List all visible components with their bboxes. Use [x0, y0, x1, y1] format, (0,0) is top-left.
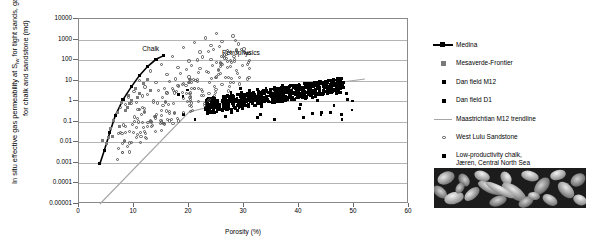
- legend-item-label: Dan field M12: [456, 77, 496, 86]
- data-point: [235, 69, 238, 72]
- data-point: [309, 85, 312, 88]
- y-axis-title-text: In situ effective gas permeability at Si…: [10, 0, 30, 184]
- data-point: [238, 82, 241, 85]
- data-point: [340, 113, 343, 116]
- data-point: [314, 94, 317, 97]
- data-point: [214, 76, 217, 79]
- legend-item[interactable]: West Lulu Sandstone: [432, 132, 590, 142]
- data-point: [247, 96, 250, 99]
- data-point: [114, 114, 117, 117]
- x-tick-label: 50: [341, 207, 365, 214]
- data-point: [289, 92, 292, 95]
- data-point: [207, 71, 210, 74]
- data-point: [135, 126, 138, 129]
- data-point: [177, 85, 180, 88]
- data-point: [159, 119, 162, 122]
- y-tick-label: 1: [26, 96, 72, 103]
- data-point: [256, 116, 259, 119]
- data-point: [250, 99, 253, 102]
- data-point: [176, 66, 179, 69]
- legend-item-label: Dan field D1: [456, 95, 492, 104]
- data-point: [214, 106, 217, 109]
- data-point: [299, 92, 302, 95]
- y-tick-label: 0.0001: [26, 178, 72, 185]
- y-tick-label: 10: [26, 76, 72, 83]
- legend-item[interactable]: Mesaverde-Frontier: [432, 58, 590, 68]
- y-tick-label: 0.001: [26, 158, 72, 165]
- data-point: [188, 96, 191, 99]
- x-tick-mark: [133, 203, 134, 207]
- data-point: [205, 108, 208, 111]
- black-square-icon: [432, 150, 456, 160]
- data-point: [267, 100, 270, 103]
- data-point: [271, 92, 274, 95]
- x-tick-label: 0: [66, 207, 90, 214]
- data-point: [149, 89, 152, 92]
- data-point: [211, 111, 214, 114]
- data-point: [139, 141, 142, 144]
- x-tick-label: 10: [121, 207, 145, 214]
- data-point: [174, 77, 177, 80]
- data-point: [296, 87, 299, 90]
- data-point: [137, 120, 140, 123]
- data-point: [204, 36, 207, 39]
- data-point: [345, 92, 348, 95]
- data-point: [255, 95, 258, 98]
- data-point: [229, 65, 232, 68]
- data-point: [277, 98, 280, 101]
- data-point: [333, 104, 336, 107]
- data-point: [298, 107, 301, 110]
- data-point: [124, 109, 127, 112]
- data-point: [120, 101, 123, 104]
- data-point: [320, 111, 323, 114]
- data-point: [198, 50, 201, 53]
- y-tick-label: 100: [26, 55, 72, 62]
- series-line: [100, 56, 163, 164]
- data-point: [165, 73, 168, 76]
- data-point: [331, 82, 334, 85]
- data-point: [259, 91, 262, 94]
- legend-item[interactable]: Medina: [432, 40, 590, 50]
- data-point: [212, 100, 215, 103]
- data-point: [160, 129, 163, 132]
- legend-item-label: Medina: [456, 40, 477, 49]
- y-tick-label: 0.00001: [26, 199, 72, 206]
- data-point: [153, 115, 156, 118]
- data-point: [130, 102, 133, 105]
- data-point: [211, 64, 214, 67]
- data-point: [168, 110, 171, 113]
- legend-item[interactable]: Dan field D1: [432, 95, 590, 105]
- data-point: [130, 85, 133, 88]
- chart-root: In situ effective gas permeability at Si…: [0, 0, 591, 246]
- data-point: [220, 83, 223, 86]
- data-point: [197, 87, 200, 90]
- data-point: [112, 119, 115, 122]
- data-point: [309, 92, 312, 95]
- x-tick-mark: [353, 203, 354, 207]
- data-point: [303, 90, 306, 93]
- data-point: [138, 74, 141, 77]
- data-point: [162, 54, 165, 57]
- data-point: [282, 92, 285, 95]
- data-point: [266, 96, 269, 99]
- legend-item[interactable]: Dan field M12: [432, 77, 590, 87]
- data-point: [126, 106, 129, 109]
- data-point: [290, 89, 293, 92]
- y-tick-label: 1000: [26, 35, 72, 42]
- data-point: [208, 81, 211, 84]
- data-point: [177, 93, 180, 96]
- x-tick-mark: [243, 203, 244, 207]
- data-point: [198, 67, 201, 70]
- legend-item[interactable]: Low-productivity chalk, Jæren, Central N…: [432, 150, 590, 160]
- data-point: [351, 100, 354, 103]
- data-point: [143, 111, 146, 114]
- x-tick-label: 60: [396, 207, 420, 214]
- x-tick-label: 30: [231, 207, 255, 214]
- data-point: [194, 118, 197, 121]
- data-point: [206, 111, 209, 114]
- data-point: [265, 90, 268, 93]
- data-point: [302, 116, 305, 119]
- data-point: [305, 95, 308, 98]
- data-point: [329, 111, 332, 114]
- legend-item[interactable]: Maastrichtian M12 trendline: [432, 114, 590, 124]
